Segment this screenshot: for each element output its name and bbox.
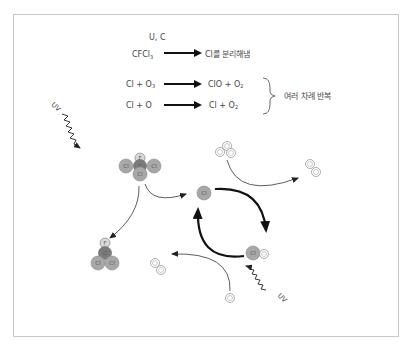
ozone-depletion-diagram: U, C CFCl3 Cl를 분리해냄 Cl + O3 ClO + O2 Cl … [0,0,409,348]
oxygen-atom [216,148,225,157]
svg-text:F: F [103,240,106,246]
oxygen-atom [306,160,315,169]
cycle-arrow-clo-to-cl [198,210,244,257]
equation-3: Cl + O Cl + O2 [126,101,238,110]
oxygen-molecule-right [306,160,321,177]
uv-wave-arrow [246,266,266,290]
cl-atom-cycle: Cl [197,186,211,200]
cycle-arrow-cl-to-clo [215,189,266,230]
cfcl2-arrow [110,186,139,238]
equation-1: U, C CFCl3 Cl를 분리해냄 [132,33,250,60]
cfcl2-molecule: F C Cl Cl [91,238,119,270]
svg-text:Cl: Cl [137,171,143,177]
svg-text:Cl: Cl [109,260,115,266]
brace [263,78,275,114]
eq3-right: Cl + O2 [209,101,238,110]
oxygen-molecule-bottom [151,259,166,275]
eq2-left: Cl + O3 [126,80,155,89]
oxygen-atom [226,294,235,303]
oxygen-atom [157,266,166,275]
uv-label: UV [276,292,289,305]
eq3-left: Cl + O [126,101,152,110]
eq2-right: ClO + O2 [208,80,243,89]
oxygen-atom [260,250,269,259]
oxygen-atom [227,149,236,158]
equation-2: Cl + O3 ClO + O2 [126,80,243,89]
clo-molecule: Cl [246,246,269,260]
svg-text:Cl: Cl [95,260,101,266]
ozone-molecule [216,142,236,158]
over-arrow-label: U, C [149,33,166,42]
svg-text:Cl: Cl [123,163,129,169]
cl-release-arrow [145,184,186,198]
cfcl3-molecule: F Cl Cl C Cl [119,153,161,181]
eq1-left: CFCl3 [132,50,153,60]
svg-text:Cl: Cl [201,190,207,196]
brace-label: 여러 차례 반복 [284,91,331,101]
o2-release-arrow [227,160,298,186]
svg-text:C: C [103,250,107,256]
eq1-right: Cl를 분리해냄 [205,49,250,59]
o2-form-arrow [172,254,230,291]
oxygen-atom [312,168,321,177]
uv-wave-arrow [62,114,80,148]
svg-text:Cl: Cl [151,163,157,169]
oxygen-atom-bottom [226,294,235,303]
svg-text:Cl: Cl [250,250,256,256]
uv-label: UV [49,101,62,114]
